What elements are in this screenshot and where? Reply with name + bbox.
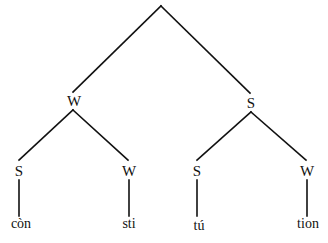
node-level2-3: S xyxy=(192,164,202,179)
edge-root-left xyxy=(73,6,161,92)
leaf-syllable-4: tion xyxy=(297,217,319,231)
edge-root-right xyxy=(161,6,250,93)
tree-diagram xyxy=(0,0,328,243)
leaf-syllable-1: còn xyxy=(11,217,31,231)
node-level2-4: W xyxy=(299,164,315,179)
edge-w-left xyxy=(19,110,73,160)
edge-s-right xyxy=(251,112,306,160)
node-level1-right: S xyxy=(246,96,256,111)
leaf-syllable-3: tú xyxy=(194,219,205,233)
node-level2-1: S xyxy=(14,164,24,179)
edge-s-left xyxy=(197,112,251,160)
node-level1-left: W xyxy=(66,94,82,109)
edge-w-right xyxy=(73,110,128,160)
leaf-syllable-2: sti xyxy=(122,217,135,231)
node-level2-2: W xyxy=(121,164,137,179)
